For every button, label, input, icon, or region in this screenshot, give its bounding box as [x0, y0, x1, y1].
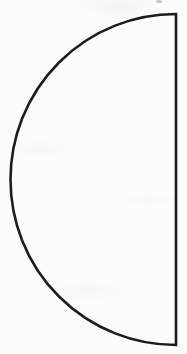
semicircle-figure	[0, 0, 187, 354]
semicircle-shape	[11, 14, 177, 345]
stray-mark	[156, 0, 162, 3]
page-background	[0, 0, 187, 354]
